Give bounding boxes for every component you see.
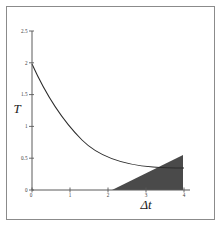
- y-tick-label-2: 2: [25, 60, 28, 66]
- x-axis-tick-labels: 0 1 2 3 4: [30, 192, 186, 198]
- x-axis-label: Δt: [139, 197, 152, 212]
- y-tick-label-1: 1: [25, 123, 28, 129]
- chart-svg: 0 0.5 1 1.5 2 2.5 0 1 2 3 4: [0, 0, 223, 228]
- y-tick-label-0: 0: [25, 187, 28, 193]
- y-tick-label-2_5: 2.5: [21, 28, 28, 34]
- shaded-region-triangle: [112, 155, 183, 190]
- x-tick-label-2: 2: [107, 192, 110, 198]
- figure-root: 0 0.5 1 1.5 2 2.5 0 1 2 3 4: [0, 0, 223, 228]
- plot-area: 0 0.5 1 1.5 2 2.5 0 1 2 3 4: [0, 0, 223, 228]
- decay-curve: [32, 64, 184, 168]
- x-tick-label-4: 4: [183, 192, 186, 198]
- y-axis-tick-labels: 0 0.5 1 1.5 2 2.5: [21, 28, 28, 193]
- x-tick-label-1: 1: [69, 192, 72, 198]
- y-tick-label-0_5: 0.5: [21, 155, 28, 161]
- x-tick-label-0: 0: [30, 192, 33, 198]
- y-tick-label-1_5: 1.5: [21, 91, 28, 97]
- y-axis-label: T: [13, 101, 21, 116]
